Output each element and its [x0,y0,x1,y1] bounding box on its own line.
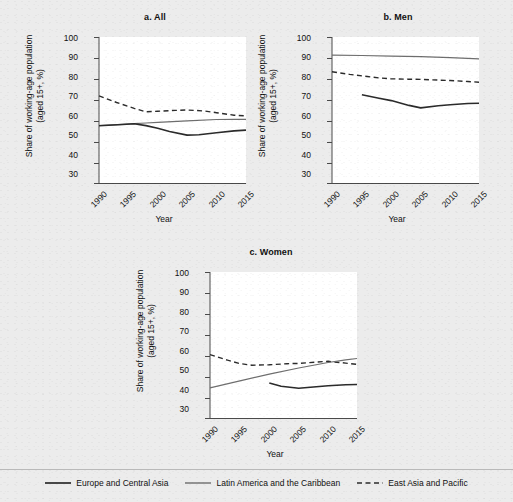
panel-c-xtick-2000: 2000 [256,424,279,447]
panel-c-ytick-70: 70 [167,326,189,336]
panel-c-plot-area [193,272,357,419]
panel-b-ytick-40: 40 [289,150,311,160]
panel-c-ytick-100: 100 [167,268,189,278]
panel-c-xtick-1990: 1990 [197,424,220,447]
panel-c-ytick-30: 30 [167,404,189,414]
panel-a-ytick-100: 100 [56,33,78,43]
legend-swatch-solid-dark-icon [45,479,71,487]
legend-item-east-asia-and-pacific[interactable]: East Asia and Pacific [357,478,467,488]
panel-c-xtick-2005: 2005 [285,424,308,447]
panel-a-ytick-30: 30 [56,169,78,179]
panel-b-ytick-100: 100 [289,33,311,43]
panel-b-men: b. Men Share of working-age population (… [253,8,498,230]
panel-c-title: c. Women [176,247,366,257]
panel-c-xlabel: Year [193,449,357,459]
panel-a-title: a. All [60,12,250,22]
panel-b-ytick-70: 70 [289,91,311,101]
panel-a-xtick-2005: 2005 [174,189,197,212]
panel-a-xtick-1990: 1990 [86,189,109,212]
panel-a-xtick-2010: 2010 [204,189,227,212]
legend-swatch-solid-gray-icon [185,479,211,487]
legend-item-latin-america-and-the-caribbean[interactable]: Latin America and the Caribbean [185,478,340,488]
panel-b-xlabel: Year [315,214,479,224]
panel-c-xtick-2010: 2010 [315,424,338,447]
panel-a-ytick-90: 90 [56,52,78,62]
panel-c-ytick-90: 90 [167,287,189,297]
panel-c-ytick-80: 80 [167,307,189,317]
panel-b-xtick-2010: 2010 [437,189,460,212]
panel-a-xtick-2000: 2000 [145,189,168,212]
panel-c-ytick-40: 40 [167,385,189,395]
panel-a-ytick-60: 60 [56,111,78,121]
panel-b-xtick-2015: 2015 [466,189,489,212]
legend-label-europe-and-central-asia: Europe and Central Asia [76,478,168,488]
panel-b-ylabel-line2: (aged 15+, %) [268,16,279,176]
panel-a-ylabel: Share of working-age population (aged 15… [24,16,45,176]
panel-a-all: a. All Share of working-age population (… [20,8,245,230]
panel-b-plot-area [315,37,479,184]
panel-a-ytick-40: 40 [56,150,78,160]
panel-c-ylabel-line2: (aged 15+, %) [146,251,157,411]
panel-c-ytick-60: 60 [167,346,189,356]
legend-item-europe-and-central-asia[interactable]: Europe and Central Asia [45,478,168,488]
panel-b-title: b. Men [303,12,493,22]
figure-root: a. All Share of working-age population (… [0,0,513,502]
panel-b-xtick-1990: 1990 [319,189,342,212]
panel-a-xtick-1995: 1995 [115,189,138,212]
legend-label-latin-america-and-the-caribbean: Latin America and the Caribbean [216,478,340,488]
panel-b-ytick-60: 60 [289,111,311,121]
panel-a-ylabel-line1: Share of working-age population [24,16,35,176]
panel-c-xtick-2015: 2015 [344,424,367,447]
panel-b-xtick-1995: 1995 [348,189,371,212]
panel-c-women: c. Women Share of working-age population… [131,243,376,465]
panel-b-ytick-80: 80 [289,72,311,82]
panel-b-ylabel: Share of working-age population (aged 15… [257,16,278,176]
panel-a-plot-area [82,37,246,184]
panel-b-ytick-50: 50 [289,130,311,140]
chart-legend: Europe and Central Asia Latin America an… [0,478,513,488]
legend-separator [0,469,513,470]
panel-b-xtick-2005: 2005 [407,189,430,212]
panel-a-ytick-50: 50 [56,130,78,140]
panel-b-xtick-2000: 2000 [378,189,401,212]
panel-c-ytick-50: 50 [167,365,189,375]
panel-c-ylabel-line1: Share of working-age population [135,251,146,411]
panel-a-ylabel-line2: (aged 15+, %) [35,16,46,176]
legend-label-east-asia-and-pacific: East Asia and Pacific [388,478,467,488]
panel-a-ytick-70: 70 [56,91,78,101]
panel-b-ytick-90: 90 [289,52,311,62]
panel-c-ylabel: Share of working-age population (aged 15… [135,251,156,411]
panel-a-xlabel: Year [82,214,246,224]
panel-b-ylabel-line1: Share of working-age population [257,16,268,176]
panel-a-ytick-80: 80 [56,72,78,82]
panel-b-ytick-30: 30 [289,169,311,179]
legend-swatch-dashed-icon [357,479,383,487]
panel-c-xtick-1995: 1995 [226,424,249,447]
